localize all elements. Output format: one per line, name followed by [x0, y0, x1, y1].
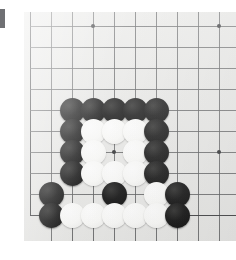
go-board-photo [24, 12, 236, 241]
screenshot-root [0, 0, 236, 260]
board-stone-layer [24, 12, 236, 241]
left-edge-marker-bar [0, 9, 5, 28]
black-stone[interactable] [165, 203, 190, 228]
